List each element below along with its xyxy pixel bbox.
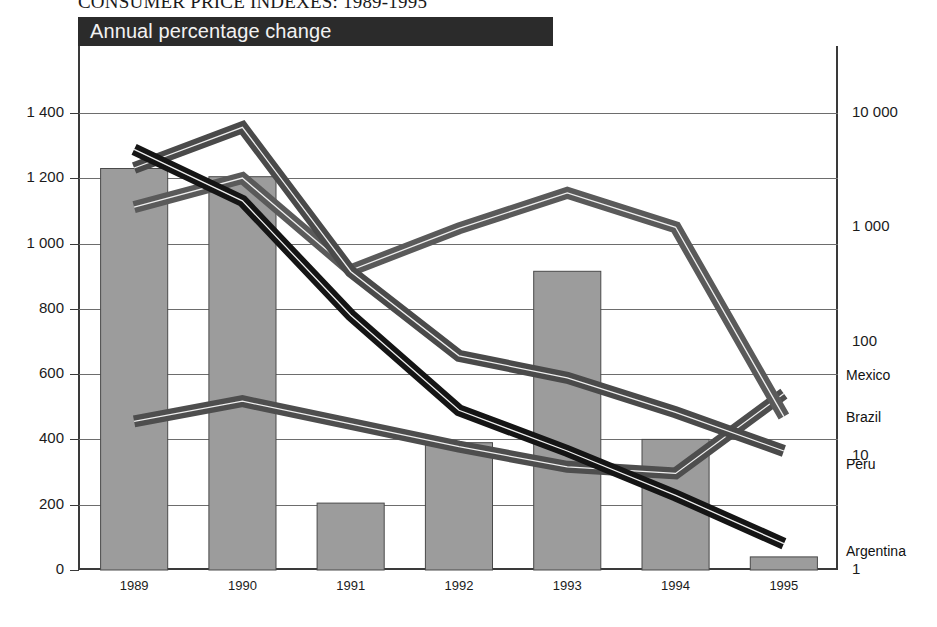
bar-region-1990 <box>209 177 276 570</box>
bar-region-1995 <box>750 557 817 570</box>
chart-canvas <box>0 0 937 627</box>
bar-region-1993 <box>534 271 601 570</box>
bar-region-1989 <box>101 169 168 571</box>
series-label-peru: Peru <box>846 456 876 472</box>
chart-root: CONSUMER PRICE INDEXES: 1989-1995 Annual… <box>0 0 937 627</box>
series-label-brazil: Brazil <box>846 409 881 425</box>
bar-region-1991 <box>317 503 384 570</box>
series-label-mexico: Mexico <box>846 367 890 383</box>
series-label-argentina: Argentina <box>846 543 906 559</box>
bar-region-1992 <box>425 443 492 570</box>
